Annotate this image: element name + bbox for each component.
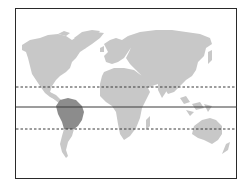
- madagascar: [146, 116, 150, 130]
- southeast-asia-islands: [180, 96, 212, 116]
- indian-subcontinent: [158, 80, 168, 98]
- new-zealand: [222, 142, 230, 154]
- world-map: [0, 0, 248, 188]
- british-isles: [100, 46, 104, 52]
- japan: [208, 50, 212, 64]
- south-america-tropical: [56, 98, 84, 129]
- north-america: [22, 32, 104, 100]
- south-america-southern: [60, 129, 74, 158]
- australia: [192, 118, 222, 144]
